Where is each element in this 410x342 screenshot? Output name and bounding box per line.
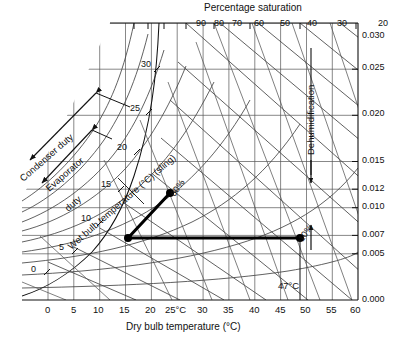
y-label-007: 0.007 — [362, 230, 385, 239]
x-label-5: 5 — [71, 305, 76, 315]
wet-bulb-label-20: 20 — [117, 143, 127, 152]
y-label-000: 0.000 — [362, 295, 385, 304]
sat-label-60: 60 — [254, 19, 264, 28]
wet-bulb-label-15: 15 — [101, 180, 111, 189]
dehumidification-label: Dehumidification — [306, 85, 316, 155]
top-axis-ticks — [134, 23, 356, 29]
sat-label-80: 80 — [214, 19, 224, 28]
y-label-030: 0.030 — [362, 31, 385, 40]
wet-bulb-label-30: 30 — [141, 60, 151, 69]
state-point-saturation[interactable] — [124, 234, 132, 242]
sat-label-90: 90 — [196, 19, 206, 28]
sat-label-40: 40 — [307, 19, 317, 28]
sat-label-50: 50 — [280, 19, 290, 28]
x-label-60: 60 — [350, 305, 361, 315]
y-label-005: 0.005 — [362, 249, 385, 258]
process-segment-cooling — [128, 193, 170, 238]
sat-label-30: 30 — [337, 19, 347, 28]
y-label-010: 0.010 — [362, 202, 385, 211]
x-label-40: 40 — [249, 305, 260, 315]
x-label-25: 25°C — [165, 305, 186, 315]
x-label-45: 45 — [275, 305, 286, 315]
wet-bulb-label-25: 25 — [130, 104, 140, 113]
condenser-duty-leader — [96, 93, 130, 107]
wet-bulb-label-0: 0 — [31, 265, 36, 274]
chart-title: Percentage saturation — [204, 3, 302, 13]
sat-label-70: 70 — [232, 19, 242, 28]
x-label-30: 30 — [197, 305, 208, 315]
x-axis-title: Dry bulb temperature (°C) — [126, 322, 241, 332]
y-label-015: 0.015 — [362, 156, 385, 165]
y-label-025: 0.025 — [362, 63, 385, 72]
x-label-50: 50 — [300, 305, 311, 315]
evaporator-duty-leader — [92, 130, 112, 139]
x-label-15: 15 — [119, 305, 130, 315]
wet-bulb-label-5: 5 — [59, 243, 64, 252]
x-label-0: 0 — [45, 305, 50, 315]
x-label-35: 35 — [223, 305, 234, 315]
x-label-20: 20 — [145, 305, 156, 315]
x-label-10: 10 — [93, 305, 104, 315]
psychrometric-chart: Percentage saturation 90 80 70 60 50 40 … — [0, 0, 410, 342]
y-label-020: 0.020 — [362, 109, 385, 118]
x-label-55: 55 — [326, 305, 337, 315]
sat-label-20: 20 — [378, 19, 388, 28]
y-label-012: 0.012 — [362, 184, 385, 193]
temp47-label: 47°C — [278, 281, 299, 291]
